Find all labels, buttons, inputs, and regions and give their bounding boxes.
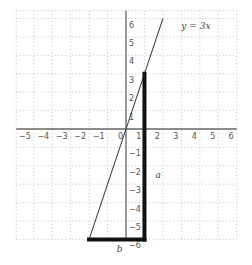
x-tick-label: 3 xyxy=(173,132,178,141)
y-tick-label: −1 xyxy=(129,149,141,158)
coordinate-plane: −5−4−3−2−10123456−6−5−4−3−2−1123456 y = … xyxy=(0,0,252,265)
x-tick-label: −2 xyxy=(74,132,86,141)
segment-a-label: a xyxy=(156,170,161,180)
x-tick-label: 4 xyxy=(192,132,197,141)
y-tick-label: 5 xyxy=(129,39,134,48)
x-tick-label: 6 xyxy=(229,132,234,141)
y-tick-label: −4 xyxy=(129,205,141,214)
y-tick-label: −3 xyxy=(129,186,141,195)
x-tick-label: 5 xyxy=(210,132,215,141)
x-tick-label: 1 xyxy=(136,132,141,141)
y-tick-label: 3 xyxy=(129,76,134,85)
y-tick-label: −6 xyxy=(129,241,141,250)
x-tick-label: −1 xyxy=(93,132,105,141)
x-tick-label: 2 xyxy=(155,132,160,141)
y-tick-label: −2 xyxy=(129,168,141,177)
axes xyxy=(16,11,236,240)
y-tick-label: 6 xyxy=(129,21,134,30)
equation-label: y = 3x xyxy=(180,21,210,31)
y-tick-label: 4 xyxy=(129,57,134,66)
y-tick-label: −5 xyxy=(129,223,141,232)
segment-b-label: b xyxy=(117,244,123,254)
x-tick-label: −4 xyxy=(37,132,49,141)
y-tick-label: 2 xyxy=(129,94,134,103)
x-tick-label: −5 xyxy=(19,132,31,141)
x-tick-label: −3 xyxy=(56,132,68,141)
